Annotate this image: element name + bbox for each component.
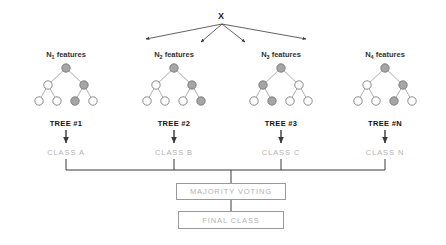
tree-node-leaf <box>71 97 79 105</box>
root-fanout-arrows <box>146 24 306 42</box>
features-label-tree-n: N4 features <box>365 50 405 60</box>
final-class-box: FINAL CLASS <box>178 211 284 229</box>
tree-node-root <box>277 64 285 72</box>
features-suffix: features <box>163 50 194 59</box>
tree-node-root <box>170 64 178 72</box>
tree-4 <box>354 64 416 105</box>
tree-node-leaf <box>161 97 169 105</box>
tree-node-internal <box>295 81 303 89</box>
features-label-tree-3: N3 features <box>261 50 301 60</box>
features-suffix: features <box>374 50 405 59</box>
tree-to-class-arrows <box>66 130 385 143</box>
tree-node-internal <box>399 81 407 89</box>
tree-node-leaf <box>53 97 61 105</box>
tree-node-root <box>381 64 389 72</box>
tree-label-1: TREE #1 <box>50 119 83 128</box>
tree-node-leaf <box>250 97 258 105</box>
tree-label-3: TREE #3 <box>265 119 298 128</box>
class-label-3: CLASS C <box>262 148 300 157</box>
class-label-2: CLASS B <box>155 148 193 157</box>
tree-1 <box>35 64 97 105</box>
tree-3 <box>250 64 312 105</box>
class-label-n: CLASS N <box>366 148 404 157</box>
tree-node-leaf <box>304 97 312 105</box>
tree-node-leaf <box>35 97 43 105</box>
tree-node-leaf <box>143 97 151 105</box>
tree-node-leaf <box>197 97 205 105</box>
tree-node-leaf <box>372 97 380 105</box>
input-x-label: X <box>218 11 224 21</box>
tree-label-2: TREE #2 <box>158 119 191 128</box>
features-suffix: features <box>55 50 86 59</box>
tree-node-root <box>62 64 70 72</box>
class-label-1: CLASS A <box>47 148 85 157</box>
tree-node-internal <box>152 81 160 89</box>
tree-node-leaf <box>89 97 97 105</box>
tree-node-leaf <box>179 97 187 105</box>
tree-node-internal <box>188 81 196 89</box>
tree-node-internal <box>44 81 52 89</box>
tree-node-leaf <box>354 97 362 105</box>
tree-node-leaf <box>390 97 398 105</box>
tree-node-leaf <box>408 97 416 105</box>
tree-layer <box>35 64 416 105</box>
tree-node-internal <box>259 81 267 89</box>
features-label-tree-2: N2 features <box>154 50 194 60</box>
tree-node-leaf <box>268 97 276 105</box>
tree-node-internal <box>80 81 88 89</box>
tree-node-internal <box>363 81 371 89</box>
features-label-tree-1: N1 features <box>46 50 86 60</box>
majority-voting-box: MAJORITY VOTING <box>176 183 286 200</box>
tree-node-leaf <box>286 97 294 105</box>
tree-2 <box>143 64 205 105</box>
tree-label-n: TREE #N <box>368 119 402 128</box>
features-suffix: features <box>270 50 301 59</box>
random-forest-diagram: X N1 features TREE #1 CLASS A N2 feature… <box>0 0 446 245</box>
